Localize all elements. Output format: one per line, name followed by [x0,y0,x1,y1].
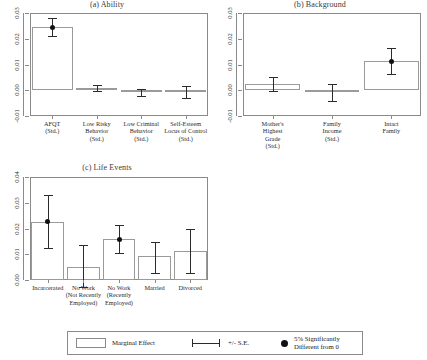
error-bar-cap [328,101,337,102]
error-bar-cap [115,225,124,226]
x-axis-tick [273,116,274,119]
error-bar-cap [137,96,146,97]
x-axis-tick [52,116,53,119]
error-bar-cap [79,245,88,246]
error-bar-cap [186,273,195,274]
bar-swatch-icon [76,338,106,348]
error-bar-cap [182,98,191,99]
x-axis-label: Self-Esteem Locus of Control (Std.) [160,120,213,142]
legend-item-marginal-effect: Marginal Effect [76,338,155,348]
error-bar [186,86,187,98]
error-bar-cap [115,253,124,254]
error-bar-cap [269,77,278,78]
error-bar-cap [44,195,53,196]
y-axis-tick [25,229,29,230]
error-bar-cap [151,273,160,274]
error-bar [273,77,274,91]
statistical-figure: (a) Ability -0.010.000.010.020.03AFQT (S… [0,0,427,360]
panel-background: (b) Background -0.010.000.010.020.03Moth… [213,0,427,160]
error-bar-cap [93,91,102,92]
x-axis-tick [190,280,191,283]
error-bar-cap [328,84,337,85]
error-bar-cap [48,18,57,19]
significance-dot [117,237,122,242]
legend-label-significance: 5% Significantly Different from 0 [294,335,340,351]
x-axis-label: Family Income (Std.) [298,120,365,142]
error-bar [190,229,191,273]
y-axis-tick-label: 0.03 [12,192,22,214]
y-axis-tick [25,65,29,66]
error-bar-cap [269,91,278,92]
y-axis-tick [25,177,29,178]
x-axis-tick [155,280,156,283]
y-axis-tick-label: 0.01 [12,243,22,265]
error-bar [332,84,333,101]
y-axis-tick [238,65,242,66]
error-bar-cap [151,242,160,243]
y-axis-tick-label: 0.03 [12,2,22,24]
error-bar-cap [182,86,191,87]
error-bar-cap [387,48,396,49]
x-axis-tick [119,280,120,283]
panel-a-title: (a) Ability [0,0,214,9]
significance-dot [389,59,394,64]
y-axis-tick-label: 0.02 [225,28,235,50]
error-bar-cap [137,89,146,90]
y-axis-tick [25,116,29,117]
y-axis-tick [25,90,29,91]
legend-item-standard-error: +/- S.E. [190,338,249,348]
y-axis-tick [25,254,29,255]
y-axis-tick [238,90,242,91]
y-axis-tick-label: -0.01 [12,105,22,127]
y-axis-tick [238,39,242,40]
y-axis-tick-label: 0.01 [12,54,22,76]
error-bar [141,89,142,96]
panel-life-events: (c) Life Events 0.000.010.020.030.04Inca… [0,163,214,325]
y-axis-tick [238,13,242,14]
x-axis-label: Divorced [168,284,212,291]
panel-b-title: (b) Background [213,0,427,9]
figure-legend: Marginal Effect +/- S.E. 5% Significantl… [67,331,363,355]
x-axis-tick [391,116,392,119]
y-axis-tick [25,39,29,40]
y-axis-tick [25,13,29,14]
x-axis-label: Intact Family [358,120,425,135]
y-axis-tick-label: 0.03 [225,2,235,24]
panel-c-title: (c) Life Events [0,163,214,172]
errorbar-icon [190,338,222,348]
error-bar-cap [186,229,195,230]
legend-item-significance: 5% Significantly Different from 0 [281,335,340,351]
y-axis-tick-label: 0.00 [12,269,22,291]
y-axis-tick-label: 0.00 [225,79,235,101]
y-axis-tick [25,203,29,204]
y-axis-tick-label: 0.01 [225,54,235,76]
error-bar-cap [387,74,396,75]
error-bar-cap [44,248,53,249]
error-bar-cap [93,85,102,86]
panel-ability: (a) Ability -0.010.000.010.020.03AFQT (S… [0,0,214,160]
y-axis-tick [25,280,29,281]
y-axis-tick-label: 0.00 [12,79,22,101]
error-bar [155,242,156,273]
error-bar-cap [48,36,57,37]
legend-label-standard-error: +/- S.E. [228,339,249,347]
x-axis-tick [141,116,142,119]
y-axis-tick-label: -0.01 [225,105,235,127]
significance-dot-icon [281,340,288,347]
y-axis-tick-label: 0.04 [12,166,22,188]
x-axis-tick [97,116,98,119]
significance-dot [50,25,55,30]
y-axis-tick-label: 0.02 [12,218,22,240]
x-axis-label: Mother's Highest Grade (Std.) [239,120,306,150]
y-axis-tick-label: 0.02 [12,28,22,50]
x-axis-tick [186,116,187,119]
y-axis-tick [238,116,242,117]
x-axis-tick [48,280,49,283]
x-axis-tick [332,116,333,119]
x-axis-tick [83,280,84,283]
legend-label-marginal-effect: Marginal Effect [112,339,155,347]
